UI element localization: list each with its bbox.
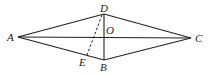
dashed-segment-de bbox=[87, 15, 102, 55]
label-a: A bbox=[6, 31, 14, 43]
label-e: E bbox=[78, 56, 86, 68]
label-b: B bbox=[100, 61, 107, 73]
label-d: D bbox=[99, 2, 108, 14]
rhombus-diagram: A C D O E B bbox=[0, 0, 212, 75]
side-cb bbox=[104, 38, 191, 60]
side-ba bbox=[18, 37, 104, 60]
side-dc bbox=[104, 14, 191, 38]
label-o: O bbox=[106, 24, 114, 36]
label-c: C bbox=[195, 32, 203, 44]
side-ad bbox=[18, 14, 104, 37]
